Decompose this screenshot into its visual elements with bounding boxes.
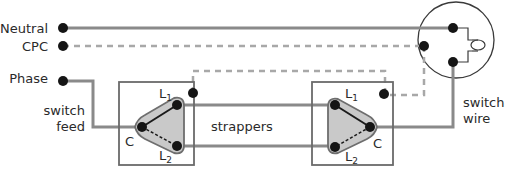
- right-switch-c-label: C: [373, 136, 382, 151]
- right-switch-common-terminal: [365, 122, 375, 132]
- right-switch-l2-label: L2: [345, 149, 358, 166]
- left-switch-l1-label: L1: [159, 86, 172, 103]
- rose-switch-wire-terminal: [448, 57, 458, 67]
- ceiling-rose: [418, 2, 494, 78]
- left-switch-c-label: C: [125, 134, 134, 149]
- neutral-supply-terminal: [58, 23, 68, 33]
- phase-supply-terminal: [58, 76, 68, 86]
- switch-feed-label-line1: switch: [43, 103, 85, 118]
- cpc-to-right-switch: [384, 46, 424, 95]
- switch-wire-label-line2: wire: [463, 111, 490, 126]
- cpc-supply-terminal: [58, 41, 68, 51]
- left-switch-l1-terminal: [172, 100, 182, 110]
- strappers-label: strappers: [211, 119, 273, 134]
- right-switch-earth-terminal: [379, 89, 389, 99]
- phase-label: Phase: [9, 71, 48, 86]
- neutral-label: Neutral: [0, 21, 48, 36]
- switch-wire-label-line1: switch: [463, 95, 505, 110]
- switch-feed-label-line2: feed: [56, 119, 85, 134]
- rose-neutral-terminal: [448, 23, 458, 33]
- cpc-label: CPC: [22, 39, 48, 54]
- rose-earth-terminal: [419, 41, 429, 51]
- lamp-filament-icon: [471, 40, 485, 50]
- left-switch-l2-terminal: [172, 141, 182, 151]
- right-switch-l1-label: L1: [345, 86, 358, 103]
- right-switch-l1-terminal: [330, 100, 340, 110]
- left-switch-earth-terminal: [188, 88, 198, 98]
- left-switch-common-terminal: [137, 122, 147, 132]
- two-way-switching-diagram: Neutral CPC Phase switch feed strappers …: [0, 0, 507, 174]
- right-switch-l2-terminal: [330, 142, 340, 152]
